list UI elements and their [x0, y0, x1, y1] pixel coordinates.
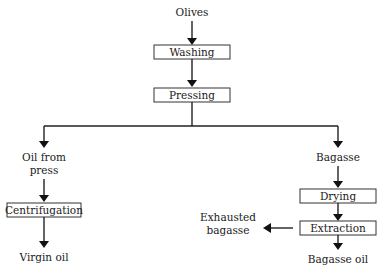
node-oil-from-press-line2: press: [30, 164, 59, 176]
flowchart: Olives Washing Pressing Oil from press C…: [0, 0, 384, 273]
arrowhead-icon: [333, 141, 343, 148]
node-virgin-oil: Virgin oil: [19, 251, 70, 263]
arrowhead-icon: [333, 243, 343, 250]
arrowhead-icon: [39, 141, 49, 148]
arrowhead-icon: [263, 223, 271, 233]
arrowhead-icon: [187, 38, 197, 45]
arrowhead-icon: [333, 214, 343, 221]
node-olives: Olives: [176, 6, 209, 18]
node-exhausted-bagasse-line1: Exhausted: [200, 211, 256, 223]
node-exhausted-bagasse-line2: bagasse: [207, 224, 250, 236]
node-oil-from-press-line1: Oil from: [22, 151, 66, 163]
arrowhead-icon: [333, 181, 343, 188]
node-washing: Washing: [169, 46, 214, 58]
node-bagasse-oil: Bagasse oil: [308, 253, 369, 265]
node-bagasse: Bagasse: [316, 151, 360, 163]
node-extraction: Extraction: [310, 222, 366, 234]
node-pressing: Pressing: [169, 89, 215, 101]
node-centrifugation: Centrifugation: [5, 204, 83, 216]
arrowhead-icon: [39, 241, 49, 248]
arrowhead-icon: [39, 195, 49, 202]
arrowhead-icon: [187, 80, 197, 87]
node-drying: Drying: [320, 190, 356, 202]
